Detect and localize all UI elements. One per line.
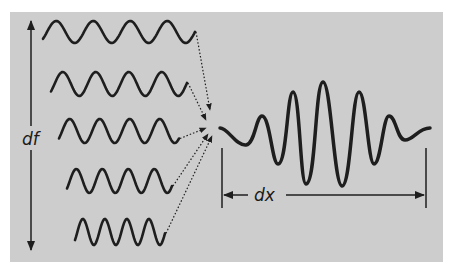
component-wave-1 (43, 21, 195, 43)
df-label: df (22, 129, 42, 149)
dotted-arrow-3 (180, 128, 206, 139)
component-wave-4 (67, 169, 172, 193)
component-waves (43, 21, 195, 245)
component-wave-3 (59, 119, 179, 143)
dotted-arrow-2 (188, 83, 206, 120)
wave-packet-diagram: df dx (0, 0, 454, 273)
dx-label: dx (254, 185, 276, 205)
component-wave-5 (75, 219, 165, 245)
dotted-arrow-5 (166, 136, 212, 233)
dx-measure (222, 148, 426, 208)
wave-packet (220, 82, 430, 186)
component-wave-2 (51, 72, 187, 96)
dotted-arrow-1 (196, 32, 210, 110)
converging-arrows (166, 32, 212, 233)
